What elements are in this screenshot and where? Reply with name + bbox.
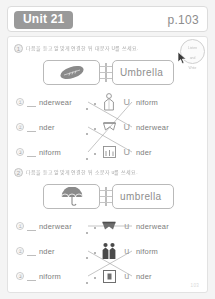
left-item-1-3[interactable]: ③ niform bbox=[8, 148, 94, 157]
word-fragment: nderwear bbox=[136, 222, 169, 231]
connector-dot[interactable] bbox=[86, 133, 88, 135]
under-box-icon bbox=[100, 267, 118, 286]
left-item-2-2[interactable]: ② nder bbox=[8, 247, 94, 256]
example-row-1: Umbrella bbox=[8, 59, 209, 86]
word-fragment: niform bbox=[136, 98, 158, 107]
matching-row: ③ niform u nd bbox=[8, 265, 209, 287]
word-fragment: niform bbox=[136, 247, 158, 256]
example-word-1: Umbrella bbox=[112, 60, 174, 85]
two-people-uniform-icon bbox=[100, 242, 118, 261]
instruction-text-2: 다음을 듣고 알맞게 연결한 뒤 소문자 u를 쓰세요. bbox=[26, 167, 209, 177]
word-fragment: niform bbox=[39, 272, 61, 281]
left-item-2-3[interactable]: ③ niform bbox=[8, 272, 94, 281]
connector-dot[interactable] bbox=[94, 227, 96, 229]
connector-dot[interactable] bbox=[86, 257, 88, 259]
worksheet-body: 1 다음을 듣고 알맞게 연결한 뒤 대문자 U를 쓰세요. Listen an… bbox=[7, 36, 208, 293]
answer-blank[interactable] bbox=[27, 272, 36, 281]
connector-dot[interactable] bbox=[94, 277, 96, 279]
right-item-2-2[interactable]: u niform bbox=[94, 242, 209, 261]
right-item-1-2[interactable]: U nderwear bbox=[94, 118, 209, 137]
connector-dot[interactable] bbox=[86, 282, 88, 284]
connector-dot[interactable] bbox=[86, 108, 88, 110]
letter-prefix: u bbox=[123, 221, 131, 231]
page-header: Unit 21 p.103 bbox=[7, 6, 208, 32]
item-number: ③ bbox=[16, 148, 24, 156]
connector-dot[interactable] bbox=[94, 252, 96, 254]
item-number: ② bbox=[16, 247, 24, 255]
matching-rows-1: ① nderwear bbox=[8, 91, 209, 165]
rugby-ball-icon bbox=[59, 65, 85, 80]
under-table-icon bbox=[100, 143, 118, 162]
example-word-2: umbrella bbox=[112, 184, 174, 209]
matching-rows-2: ① nderwear u bbox=[8, 215, 209, 289]
matching-row: ② nder U nder bbox=[8, 116, 209, 138]
instruction-row-2: 2 다음을 듣고 알맞게 연결한 뒤 소문자 u를 쓰세요. bbox=[8, 167, 209, 179]
item-number: ① bbox=[16, 222, 24, 230]
exercise-number-2: 2 bbox=[14, 168, 23, 177]
connector-dot[interactable] bbox=[94, 128, 96, 130]
answer-blank[interactable] bbox=[27, 123, 36, 132]
left-item-2-1[interactable]: ① nderwear bbox=[8, 222, 94, 231]
word-fragment: nder bbox=[136, 272, 152, 281]
matching-row: ① nderwear bbox=[8, 91, 209, 113]
person-uniform-icon bbox=[100, 93, 118, 112]
example-row-2: umbrella bbox=[8, 183, 209, 210]
example-connector-1 bbox=[100, 60, 112, 85]
underwear-icon bbox=[100, 217, 118, 236]
connector-dot[interactable] bbox=[94, 153, 96, 155]
word-fragment: nderwear bbox=[39, 222, 72, 231]
letter-prefix: u bbox=[123, 246, 131, 256]
worksheet-page: Unit 21 p.103 1 다음을 듣고 알맞게 연결한 뒤 대문자 U를 … bbox=[0, 0, 215, 299]
footer-page-number: 103 bbox=[191, 283, 199, 288]
word-fragment: nder bbox=[39, 123, 55, 132]
left-item-1-2[interactable]: ② nder bbox=[8, 123, 94, 132]
sticker-line-1: Listen bbox=[181, 46, 204, 50]
word-fragment: niform bbox=[39, 148, 61, 157]
word-fragment: nder bbox=[136, 148, 152, 157]
example-picture-box-2 bbox=[43, 184, 100, 209]
umbrella-icon bbox=[60, 187, 84, 207]
page-number-label: p.103 bbox=[167, 13, 199, 27]
word-fragment: nderwear bbox=[39, 98, 72, 107]
word-fragment: nderwear bbox=[136, 123, 169, 132]
item-number: ① bbox=[16, 98, 24, 106]
left-item-1-1[interactable]: ① nderwear bbox=[8, 98, 94, 107]
answer-blank[interactable] bbox=[27, 148, 36, 157]
word-fragment: nder bbox=[39, 247, 55, 256]
item-number: ② bbox=[16, 123, 24, 131]
letter-prefix: U bbox=[123, 97, 131, 107]
right-item-1-3[interactable]: U nder bbox=[94, 143, 209, 162]
letter-prefix: u bbox=[123, 271, 131, 281]
answer-blank[interactable] bbox=[27, 222, 36, 231]
connector-dot[interactable] bbox=[86, 158, 88, 160]
connector-dot[interactable] bbox=[94, 103, 96, 105]
exercise-number-1: 1 bbox=[14, 44, 23, 53]
letter-prefix: U bbox=[123, 147, 131, 157]
example-picture-box-1 bbox=[43, 60, 100, 85]
exercise-section-1: 1 다음을 듣고 알맞게 연결한 뒤 대문자 U를 쓰세요. Listen an… bbox=[8, 43, 209, 165]
matching-row: ③ niform U nd bbox=[8, 141, 209, 163]
unit-badge: Unit 21 bbox=[14, 11, 73, 29]
letter-prefix: U bbox=[123, 122, 131, 132]
answer-blank[interactable] bbox=[27, 98, 36, 107]
right-item-2-1[interactable]: u nderwear bbox=[94, 217, 209, 236]
answer-blank[interactable] bbox=[27, 247, 36, 256]
example-connector-2 bbox=[100, 184, 112, 209]
connector-dot[interactable] bbox=[86, 232, 88, 234]
matching-row: ① nderwear u bbox=[8, 215, 209, 237]
matching-row: ② nder bbox=[8, 240, 209, 262]
exercise-section-2: 2 다음을 듣고 알맞게 연결한 뒤 소문자 u를 쓰세요. bbox=[8, 167, 209, 289]
item-number: ③ bbox=[16, 272, 24, 280]
underwear-icon bbox=[100, 118, 118, 137]
right-item-1-1[interactable]: U niform bbox=[94, 93, 209, 112]
